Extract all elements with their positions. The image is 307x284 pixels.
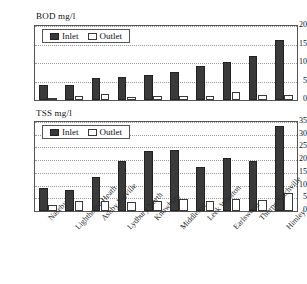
gridline bbox=[35, 160, 297, 161]
bar-inlet-naseby bbox=[39, 188, 48, 211]
figure-bod-tss-bar-charts: BOD mg/l 05101520 Inlet Outlet TSS mg/l … bbox=[0, 0, 307, 284]
legend-entry-outlet: Outlet bbox=[88, 128, 123, 137]
legend-label-outlet: Outlet bbox=[100, 128, 123, 137]
bar-inlet-lighthorne-heath bbox=[65, 85, 74, 100]
bar-inlet-naseby bbox=[39, 85, 48, 100]
x-axis-category-labels: NasebyLighthorne HeathAshby FolvilleLydb… bbox=[0, 213, 307, 283]
chart-title-tss: TSS mg/l bbox=[36, 108, 72, 118]
legend-swatch-inlet-icon bbox=[50, 33, 59, 40]
legend-entry-inlet: Inlet bbox=[50, 128, 79, 137]
bar-outlet-ashby-folville bbox=[101, 94, 110, 100]
bar-outlet-leek-wootton bbox=[206, 96, 215, 100]
legend-label-inlet: Inlet bbox=[62, 32, 79, 41]
bar-inlet-middleton bbox=[170, 72, 179, 100]
bar-outlet-lydbury-north bbox=[127, 97, 136, 100]
legend-entry-outlet: Outlet bbox=[88, 32, 123, 41]
bar-inlet-thorpe-satchville bbox=[249, 56, 258, 100]
gridline bbox=[35, 63, 297, 64]
bar-outlet-naseby bbox=[48, 98, 57, 100]
gridline bbox=[35, 186, 297, 187]
bar-inlet-lydbury-north bbox=[118, 77, 127, 100]
bar-outlet-earlswood bbox=[232, 199, 241, 211]
chart-title-bod: BOD mg/l bbox=[36, 11, 75, 21]
legend-label-inlet: Inlet bbox=[62, 128, 79, 137]
legend-swatch-outlet-icon bbox=[88, 33, 97, 40]
gridline bbox=[35, 173, 297, 174]
bar-inlet-earlswood bbox=[223, 62, 232, 100]
bar-outlet-knowbury bbox=[153, 96, 162, 100]
bar-outlet-lydbury-north bbox=[127, 202, 136, 211]
bar-outlet-earlswood bbox=[232, 92, 241, 100]
bar-outlet-thorpe-satchville bbox=[258, 95, 267, 100]
bar-inlet-knowbury bbox=[144, 75, 153, 100]
bar-outlet-lighthorne-heath bbox=[75, 201, 84, 211]
bar-inlet-ashby-folville bbox=[92, 78, 101, 100]
chart-bod: BOD mg/l 05101520 Inlet Outlet bbox=[0, 0, 307, 110]
bar-outlet-himley bbox=[284, 95, 293, 100]
bar-inlet-himley bbox=[275, 40, 284, 100]
bar-outlet-middleton bbox=[179, 199, 188, 211]
gridline bbox=[35, 122, 297, 123]
bar-inlet-lighthorne-heath bbox=[65, 190, 74, 211]
legend-entry-inlet: Inlet bbox=[50, 32, 79, 41]
bar-outlet-middleton bbox=[179, 96, 188, 100]
legend-swatch-inlet-icon bbox=[50, 129, 59, 136]
legend-swatch-outlet-icon bbox=[88, 129, 97, 136]
gridline bbox=[35, 82, 297, 83]
gridline bbox=[35, 26, 297, 27]
legend-label-outlet: Outlet bbox=[100, 32, 123, 41]
bar-inlet-leek-wootton bbox=[196, 66, 205, 100]
gridline bbox=[35, 147, 297, 148]
legend-bod: Inlet Outlet bbox=[42, 29, 130, 43]
bar-outlet-lighthorne-heath bbox=[75, 96, 84, 100]
legend-tss: Inlet Outlet bbox=[42, 125, 130, 139]
gridline bbox=[35, 45, 297, 46]
